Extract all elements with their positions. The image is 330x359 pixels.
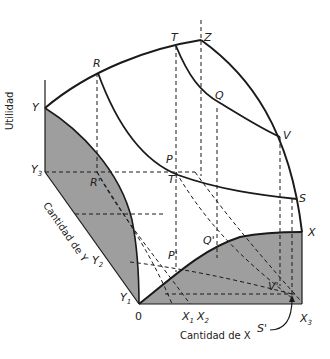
label-v-prime: V' — [268, 281, 279, 292]
axis-title-x-quantity: Cantidad de X — [180, 330, 251, 341]
left-shaded-region — [45, 108, 139, 304]
label-s: S — [299, 193, 306, 204]
tick-y1: Y1 — [120, 292, 131, 306]
label-y: Y — [32, 102, 39, 113]
label-q-prime: Q' — [203, 235, 215, 246]
label-t: T — [171, 32, 178, 43]
label-origin: 0 — [135, 311, 142, 322]
label-v: V — [283, 130, 291, 141]
label-s-prime: S' — [257, 323, 267, 334]
tick-x3: X3 — [300, 313, 312, 327]
label-r-prime: R' — [90, 177, 101, 188]
right-shaded-region — [139, 232, 302, 304]
curve-r-s — [98, 73, 297, 199]
axis-title-utility: Utilidad — [4, 92, 15, 130]
curve-t-v — [176, 46, 280, 137]
utility-frontier-diagram — [0, 0, 330, 359]
label-x: X — [308, 227, 316, 238]
label-q: Q — [215, 90, 224, 101]
label-p-prime: P' — [168, 250, 178, 261]
label-p: P — [166, 154, 173, 165]
tick-y2: Y2 — [92, 255, 103, 269]
label-r: R — [93, 58, 101, 69]
tick-x1: X1 — [182, 311, 194, 325]
label-t-prime: T' — [168, 174, 178, 185]
tick-y3: Y3 — [31, 164, 42, 178]
label-z: Z — [204, 32, 212, 43]
tick-x2: X2 — [197, 311, 209, 325]
